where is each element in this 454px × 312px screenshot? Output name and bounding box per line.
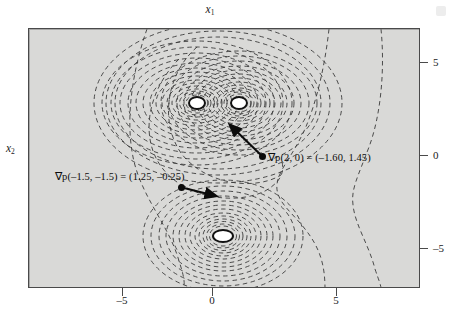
x-axis-label-subscript: 1 (211, 8, 215, 17)
gradient-arrow-at-neg1.5-neg1.5 (180, 180, 225, 205)
gradient-annotation-neg1.5-neg1.5: ∇p(–1.5, –1.5) = (1.25, –0.25) (55, 170, 185, 182)
x-tick-label-5: 5 (333, 294, 339, 306)
y-axis-label-subscript: 2 (11, 147, 15, 156)
x-tick-label-neg5: –5 (117, 294, 128, 306)
y-tick-mark-0 (420, 155, 428, 156)
scan-artifact (436, 6, 446, 16)
peak-markers (189, 97, 247, 242)
y-axis-label: x2 (6, 142, 15, 156)
x-tick-label-0: 0 (209, 294, 215, 306)
y-tick-mark-5 (420, 62, 428, 63)
y-tick-mark-neg5 (420, 248, 428, 249)
gradient-point-dot-neg1.5-neg1.5 (178, 184, 185, 191)
y-tick-label-neg5: –5 (433, 242, 444, 254)
y-tick-label-5: 5 (433, 56, 439, 68)
contour-figure: x1 x2 (0, 0, 454, 312)
x-axis-label: x1 (206, 3, 215, 17)
gradient-annotation-2-0: ∇p(2, 0) = (–1.60, 1.45) (268, 151, 371, 163)
y-tick-label-0: 0 (433, 149, 439, 161)
gradient-point-dot-2-0 (259, 153, 266, 160)
